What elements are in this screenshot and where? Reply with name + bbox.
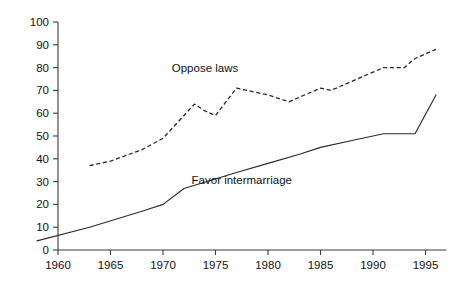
x-axis-tick-label: 1960 [45,259,71,271]
y-axis-tick-label: 70 [36,84,49,96]
chart-canvas: 0102030405060708090100196019651970197519… [0,0,458,283]
x-axis-tick-label: 1970 [150,259,176,271]
y-axis-tick-label: 60 [36,107,49,119]
series-label-favor-intermarriage: Favor intermarriage [192,174,292,186]
y-axis-tick-label: 50 [36,130,49,142]
y-axis-tick-label: 100 [30,16,49,28]
y-axis-tick-label: 90 [36,39,49,51]
y-axis-tick-label: 40 [36,153,49,165]
y-axis-tick-label: 20 [36,198,49,210]
y-axis-tick-label: 10 [36,221,49,233]
y-axis-tick-label: 30 [36,176,49,188]
x-axis-tick-label: 1975 [203,259,229,271]
x-axis-tick-label: 1965 [98,259,124,271]
x-axis-tick-label: 1980 [255,259,281,271]
series-line-oppose-laws [90,49,437,165]
y-axis-tick-label: 0 [43,244,49,256]
line-chart: 0102030405060708090100196019651970197519… [0,0,458,283]
y-axis-tick-label: 80 [36,62,49,74]
x-axis-tick-label: 1985 [308,259,334,271]
series-label-oppose-laws: Oppose laws [172,62,239,74]
series-line-favor-intermarriage [37,95,436,241]
x-axis-tick-label: 1995 [413,259,439,271]
x-axis-tick-label: 1990 [360,259,386,271]
